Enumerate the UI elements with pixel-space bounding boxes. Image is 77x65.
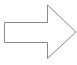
arrow-svg <box>0 0 77 65</box>
right-arrow-icon <box>5 5 77 59</box>
diagram-canvas <box>0 0 77 65</box>
